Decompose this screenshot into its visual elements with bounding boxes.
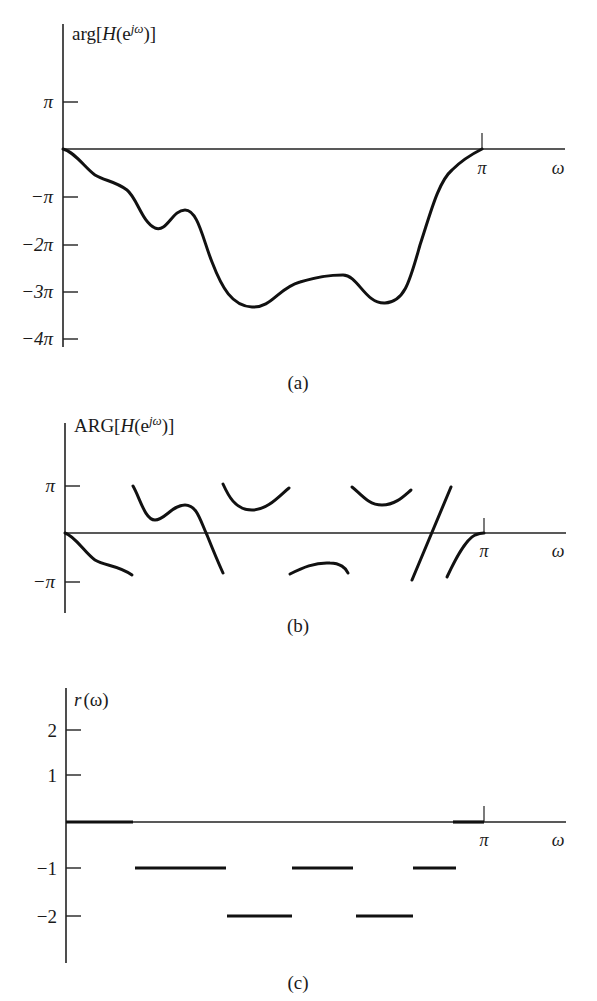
x-tick-label: π [479, 541, 489, 561]
tick-label: 1 [48, 765, 58, 786]
unwrapped-phase-curve [63, 149, 482, 307]
y-ticks [63, 102, 78, 339]
panel-caption: (b) [287, 615, 309, 637]
panel-caption: (a) [287, 372, 308, 394]
wrapped-phase-curve [65, 484, 484, 580]
tick-label: π [43, 91, 53, 112]
tick-label: −π [31, 186, 54, 207]
tick-label: −2π [21, 234, 53, 255]
panel-a: arg[H(ejω)] π −π −2π −3π −4π π ω (a) [21, 21, 565, 394]
x-tick-label: π [479, 830, 489, 850]
tick-label: 2 [48, 720, 58, 741]
y-axis-label: ARG[H(ejω)] [74, 413, 174, 437]
panel-c: r(ω) 2 1 −1 −2 π ω (c) [37, 688, 566, 994]
x-tick-label: π [477, 158, 487, 178]
tick-label: −π [33, 571, 56, 592]
panel-b: ARG[H(ejω)] π −π π ω (b) [33, 413, 566, 637]
r-step-segments [66, 822, 484, 916]
panel-caption: (c) [287, 972, 308, 994]
y-axis-label: r(ω) [74, 689, 109, 711]
y-axis-label: arg[H(ejω)] [72, 21, 156, 45]
tick-label: π [45, 475, 55, 496]
tick-label: −3π [21, 281, 53, 302]
x-axis-label: ω [552, 158, 565, 178]
tick-label: −4π [21, 328, 53, 349]
tick-label: −1 [37, 858, 57, 879]
figure: arg[H(ejω)] π −π −2π −3π −4π π ω (a) ARG… [0, 0, 597, 1001]
x-axis-label: ω [552, 541, 565, 561]
x-axis-label: ω [552, 830, 565, 850]
tick-label: −2 [37, 906, 57, 927]
